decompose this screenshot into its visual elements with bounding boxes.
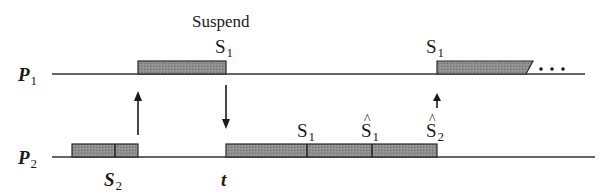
process-label-p2: P2 <box>17 147 37 171</box>
svg-text:S1: S1 <box>215 36 233 60</box>
signal-label-s2-p2: S2 <box>104 169 122 193</box>
signal-label-s1-p2: S1 <box>297 120 315 144</box>
suspend-resume-timing-diagram: Suspend P1 P2 S1 S1 S1 <box>0 0 613 194</box>
signal-label-s1-resume-p1: S1 <box>426 36 444 60</box>
signal-label-s1-hat-p2: ^ S1 <box>361 112 379 144</box>
p2-execution-block-1 <box>72 144 138 157</box>
p1-execution-block-1 <box>138 61 226 74</box>
continuation-dots <box>539 67 565 71</box>
p1-execution-block-2 <box>437 61 533 74</box>
svg-text:S1: S1 <box>361 120 379 144</box>
arrow-up-resume-p1 <box>433 93 441 108</box>
svg-text:S1: S1 <box>426 36 444 60</box>
arrow-down-p1-to-p2 <box>222 85 230 129</box>
suspend-label: Suspend <box>192 12 250 31</box>
p2-execution-block-2 <box>226 144 437 157</box>
signal-label-s2-hat-p2: ^ S2 <box>426 112 444 144</box>
svg-text:S2: S2 <box>104 169 122 193</box>
process-label-p1: P1 <box>17 64 37 88</box>
arrow-up-p2-to-p1 <box>134 91 142 135</box>
svg-text:S2: S2 <box>426 120 444 144</box>
time-label-t: t <box>221 169 227 190</box>
signal-label-s1-suspend: S1 <box>215 36 233 60</box>
svg-text:P1: P1 <box>17 64 37 88</box>
svg-text:S1: S1 <box>297 120 315 144</box>
svg-text:P2: P2 <box>17 147 37 171</box>
